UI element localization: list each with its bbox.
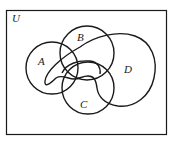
universe-rectangle: [7, 11, 167, 135]
set-b-label: B: [77, 31, 84, 43]
universe-label: U: [12, 12, 21, 24]
set-c-label: C: [80, 98, 88, 110]
set-d-label: D: [123, 63, 132, 75]
set-c-circle: [62, 62, 114, 114]
venn-diagram: U A B C D: [0, 0, 176, 142]
venn-svg: U A B C D: [0, 0, 176, 142]
set-a-label: A: [37, 55, 45, 67]
